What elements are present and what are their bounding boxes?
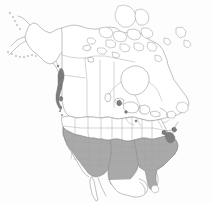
region-canada bbox=[62, 5, 191, 121]
north-america-map bbox=[0, 0, 212, 203]
distribution-map-figure bbox=[0, 0, 212, 203]
